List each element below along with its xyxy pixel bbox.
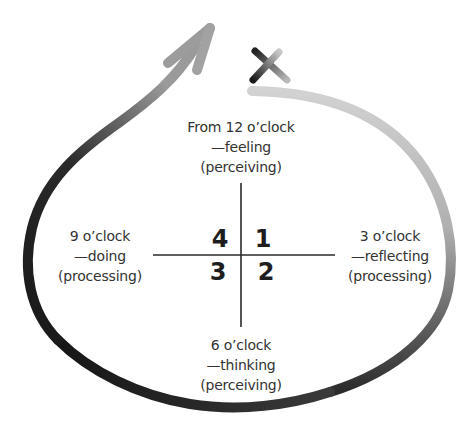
quadrant-3-number: 3 bbox=[203, 259, 233, 285]
label-3-line3: (processing) bbox=[330, 266, 450, 286]
quadrant-4-number: 4 bbox=[205, 226, 235, 252]
label-12-line1: From 12 o’clock bbox=[176, 117, 306, 137]
label-6-line1: 6 o’clock bbox=[176, 335, 306, 355]
label-6-line3: (perceiving) bbox=[176, 375, 306, 395]
x-mark-icon bbox=[253, 51, 287, 80]
label-9-line3: (processing) bbox=[40, 266, 160, 286]
label-12-oclock: From 12 o’clock —feeling (perceiving) bbox=[176, 117, 306, 177]
label-9-line1: 9 o’clock bbox=[40, 226, 160, 246]
label-3-oclock: 3 o’clock —reflecting (processing) bbox=[330, 226, 450, 286]
label-3-line2: —reflecting bbox=[330, 246, 450, 266]
label-12-line3: (perceiving) bbox=[176, 157, 306, 177]
label-6-oclock: 6 o’clock —thinking (perceiving) bbox=[176, 335, 306, 395]
quadrant-1-number: 1 bbox=[248, 226, 278, 252]
loop-segment-left bbox=[28, 46, 196, 340]
learning-cycle-diagram: From 12 o’clock —feeling (perceiving) 9 … bbox=[0, 0, 473, 435]
label-6-line2: —thinking bbox=[176, 355, 306, 375]
label-3-line1: 3 o’clock bbox=[330, 226, 450, 246]
quadrant-2-number: 2 bbox=[251, 259, 281, 285]
label-9-oclock: 9 o’clock —doing (processing) bbox=[40, 226, 160, 286]
label-12-line2: —feeling bbox=[176, 137, 306, 157]
label-9-line2: —doing bbox=[40, 246, 160, 266]
